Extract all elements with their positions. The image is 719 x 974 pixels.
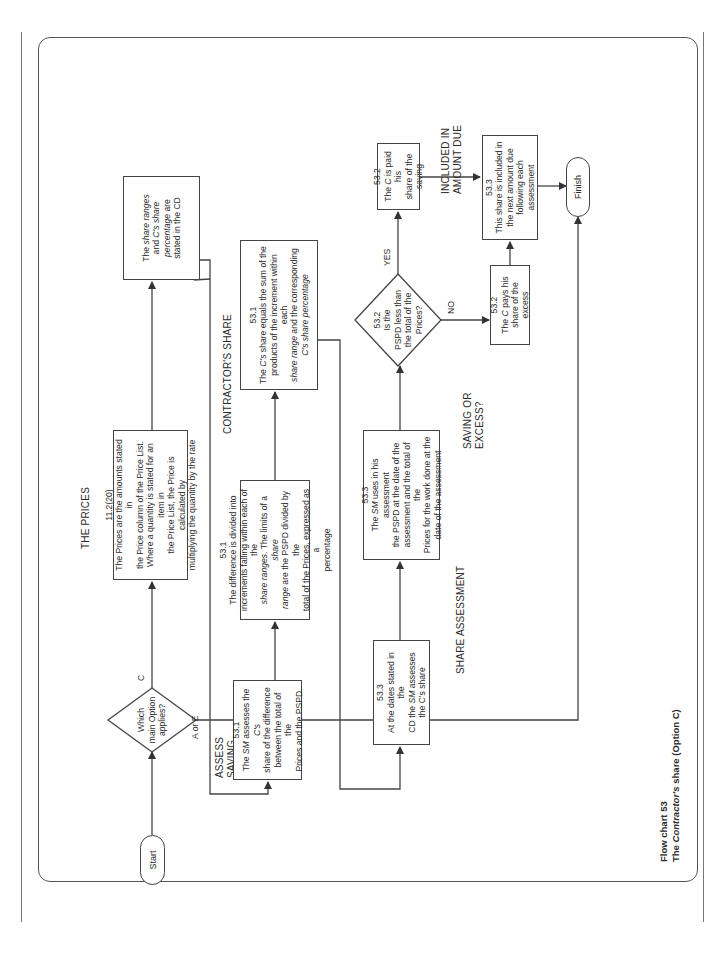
figure-caption: Flow chart 53 The Contractor's share (Op… — [658, 709, 681, 862]
heading-contractors-share: CONTRACTOR'S SHARE — [222, 314, 234, 434]
prices-box: 11.2(20) The Prices are the amounts stat… — [113, 430, 188, 580]
branch-label-yes: YES — [382, 249, 392, 266]
option-decision: Which main Option applies? — [130, 688, 174, 752]
heading-the-prices: THE PRICES — [80, 487, 92, 549]
branch-label-no: NO — [446, 301, 456, 314]
start-terminal: Start — [140, 835, 165, 885]
finish-terminal: Finish — [566, 157, 590, 217]
pays-box: 53.2 The C pays his share of the excess — [490, 265, 530, 345]
heading-share-assessment: SHARE ASSESSMENT — [455, 566, 467, 674]
sm-uses-box: 53.3 The SM uses in his assessment the P… — [363, 430, 440, 560]
pspd-decision: 53.2 Is the PSPD less than the total of … — [372, 278, 424, 362]
paid-box: 53.2 The C is paid his share of the savi… — [377, 143, 420, 210]
branch-label-a-or-e: A or E — [190, 716, 200, 739]
flowchart-page: THE PRICES CONTRACTOR'S SHARE ASSESS SAV… — [0, 0, 719, 974]
share-ranges-box: The share ranges and C's share percentag… — [123, 176, 200, 280]
dates-box: 53.3 At the dates stated in the CD the S… — [373, 640, 430, 745]
branch-label-c: C — [136, 675, 146, 681]
included-box: 53.3 This share is included in the next … — [482, 135, 538, 240]
heading-saving-or-excess: SAVING OR EXCESS? — [462, 392, 486, 449]
sm-assesses-box: 53.1 The SM assesses the C's share of th… — [233, 680, 302, 780]
heading-included-in-amount-due: INCLUDED IN AMOUNT DUE — [440, 125, 464, 194]
c-share-box: 53.1 The C's share equals the sum of the… — [240, 240, 318, 390]
difference-box: 53.1 The difference is divided into incr… — [240, 480, 310, 620]
